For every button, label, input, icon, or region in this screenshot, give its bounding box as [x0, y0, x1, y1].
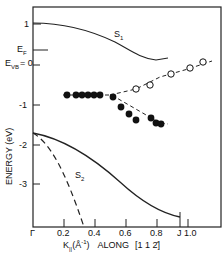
svg-text:Γ: Γ [30, 228, 35, 238]
y-tick-minus3: -3 [19, 179, 27, 189]
s1-curve [33, 23, 168, 60]
filled-markers [64, 92, 165, 128]
y-axis-label: ENERGY (eV) [4, 128, 14, 185]
svg-text:0.8: 0.8 [150, 228, 163, 238]
s1-label: S1 [114, 29, 124, 41]
s2-dashed-curve [33, 133, 84, 227]
ef-label: EF [17, 44, 27, 56]
evb-label: EVB= 0 [5, 58, 33, 70]
y-tick-minus2: -2 [19, 140, 27, 150]
s2-curve [33, 133, 180, 217]
svg-text:0.6: 0.6 [119, 228, 132, 238]
svg-text:0.2: 0.2 [57, 228, 70, 238]
plot-frame [33, 7, 221, 227]
open-markers [133, 59, 206, 92]
y-tick-minus1: -1 [19, 100, 27, 110]
svg-text:J: J [177, 228, 182, 238]
x-axis-label: K||(Å-1)ALONG[1 1 2̄] [63, 239, 160, 252]
s2-label: S2 [75, 170, 85, 182]
band-structure-chart: 1 -1 -2 -3 EF EVB= 0 ENERGY (eV) Γ 0.2 0… [0, 0, 224, 253]
svg-text:0.4: 0.4 [88, 228, 101, 238]
y-tick-1: 1 [24, 19, 29, 29]
svg-text:1.0: 1.0 [184, 228, 197, 238]
y-ticks [33, 24, 48, 184]
open-fit-line [110, 61, 212, 95]
x-tick-labels: Γ 0.2 0.4 0.6 0.8 J 1.0 [30, 228, 197, 238]
